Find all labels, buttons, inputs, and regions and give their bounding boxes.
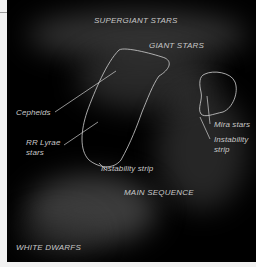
left-instability-strip-outline <box>82 49 169 167</box>
mira-stars-label: Mira stars <box>214 120 250 129</box>
rr-lyrae-leader <box>64 122 98 145</box>
hr-diagram-panel: SUPERGIANT STARS GIANT STARS Cepheids RR… <box>7 0 256 262</box>
cepheids-leader <box>55 71 116 112</box>
white-dwarfs-label: WHITE DWARFS <box>16 243 81 252</box>
rr-lyrae-label-line2: stars <box>26 148 44 157</box>
mira-leader <box>207 96 210 124</box>
cepheids-label: Cepheids <box>16 108 51 117</box>
giant-stars-label: GIANT STARS <box>149 41 204 50</box>
instability-strip-right-label-line1: Instability <box>214 135 248 144</box>
rr-lyrae-label-line1: RR Lyrae <box>26 138 60 147</box>
instability-right-leader <box>200 117 210 139</box>
instability-strip-left-label: Instability strip <box>101 164 153 173</box>
right-instability-strip-outline <box>200 72 237 116</box>
instability-strip-outlines <box>7 0 256 262</box>
main-sequence-label: MAIN SEQUENCE <box>124 188 194 197</box>
frame-rule <box>0 12 7 13</box>
supergiant-stars-label: SUPERGIANT STARS <box>94 16 178 25</box>
instability-strip-right-label-line2: strip <box>214 145 230 154</box>
